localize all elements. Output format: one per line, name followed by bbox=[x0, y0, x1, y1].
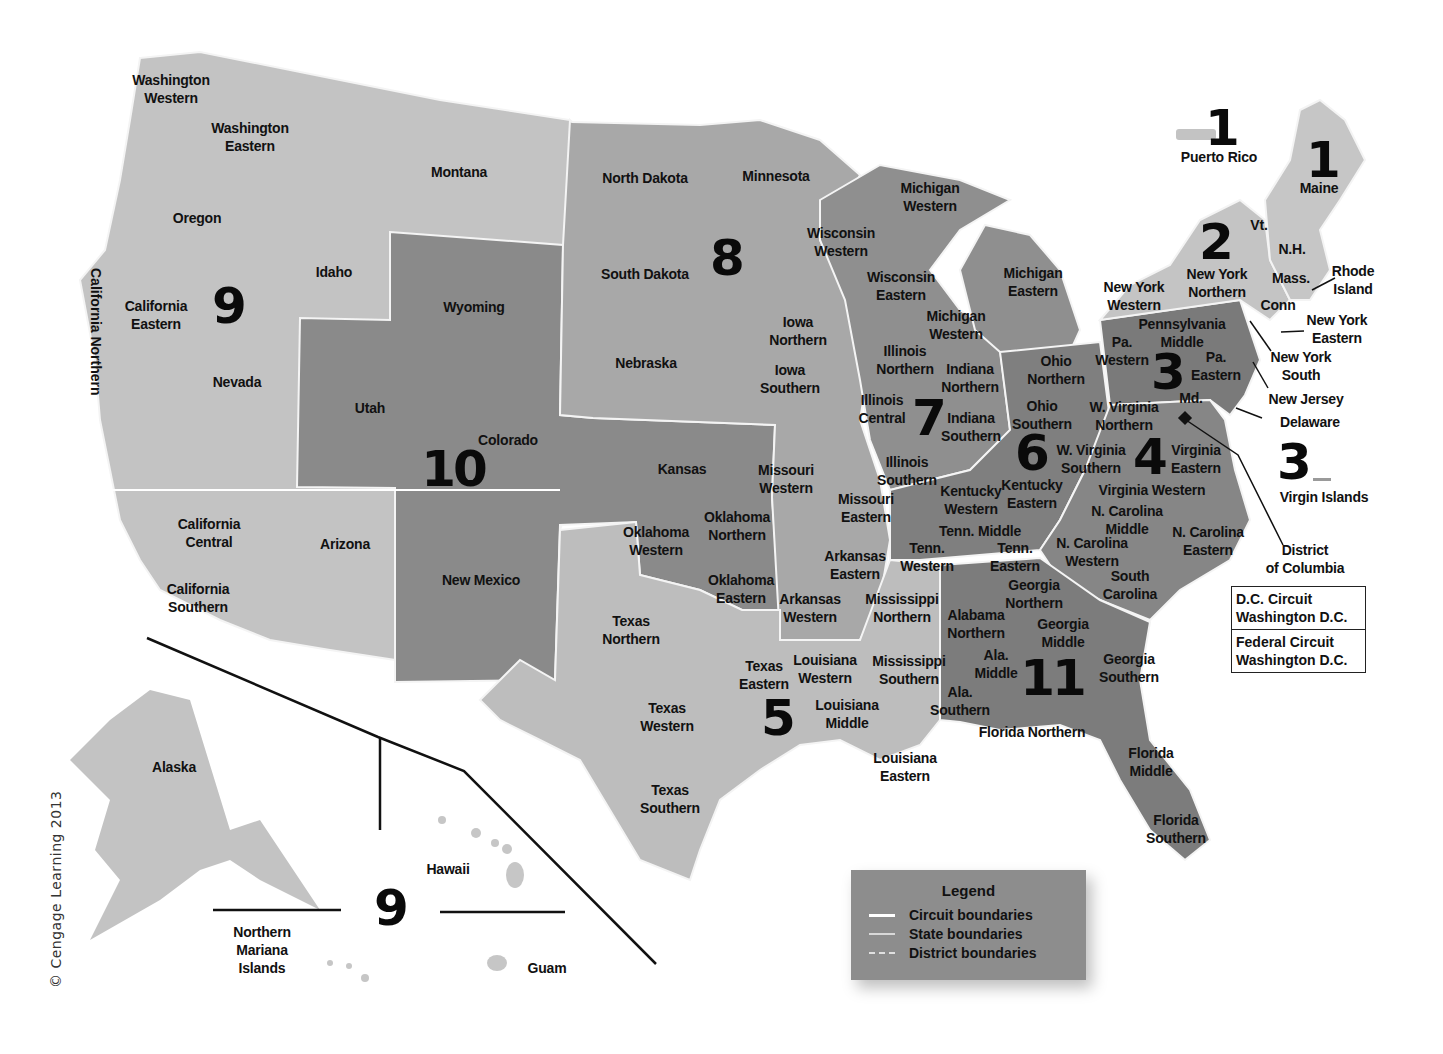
circuit-number: 11 bbox=[1020, 653, 1084, 703]
circuit-boundary-swatch bbox=[869, 914, 895, 917]
circuit-number: 8 bbox=[710, 233, 742, 283]
district-label: Nevada bbox=[213, 373, 262, 391]
district-label: Texas Northern bbox=[602, 612, 660, 648]
district-label: Delaware bbox=[1280, 413, 1340, 431]
district-label: Utah bbox=[355, 399, 385, 417]
district-label: Texas Eastern bbox=[739, 657, 789, 693]
district-label: Georgia Northern bbox=[1005, 576, 1063, 612]
district-label: Tenn. Eastern bbox=[990, 539, 1040, 575]
district-label: Texas Western bbox=[640, 699, 694, 735]
district-label: South Carolina bbox=[1103, 567, 1157, 603]
district-label: Oregon bbox=[173, 209, 222, 227]
district-label: Mass. bbox=[1272, 269, 1310, 287]
district-boundary-swatch bbox=[869, 952, 895, 954]
district-label: Wisconsin Eastern bbox=[867, 268, 935, 304]
district-label: Guam bbox=[528, 959, 567, 977]
district-label: Missouri Western bbox=[758, 461, 814, 497]
pacific-islands bbox=[327, 955, 507, 982]
district-label: Washington Eastern bbox=[211, 119, 289, 155]
district-label: Michigan Western bbox=[926, 307, 985, 343]
district-label: Indiana Northern bbox=[941, 360, 999, 396]
district-label: Illinois Northern bbox=[876, 342, 934, 378]
district-label: Colorado bbox=[478, 431, 538, 449]
district-label: Minnesota bbox=[742, 167, 809, 185]
legend-item-circuit: Circuit boundaries bbox=[869, 906, 1033, 924]
california-northern-label: California Northern bbox=[88, 268, 104, 396]
district-label: California Central bbox=[178, 515, 241, 551]
district-label: Puerto Rico bbox=[1181, 148, 1257, 166]
district-label: Indiana Southern bbox=[941, 409, 1001, 445]
circuit-number: 3 bbox=[1151, 347, 1183, 397]
district-label: Iowa Northern bbox=[769, 313, 827, 349]
district-label: New Jersey bbox=[1268, 390, 1343, 408]
district-label: Ala. Middle bbox=[974, 646, 1017, 682]
district-label: N. Carolina Middle bbox=[1091, 502, 1163, 538]
district-label: Ala. Southern bbox=[930, 683, 990, 719]
district-label: N. Carolina Eastern bbox=[1172, 523, 1244, 559]
district-label: California Southern bbox=[167, 580, 230, 616]
dc-circuit-cell: D.C. Circuit Washington D.C. bbox=[1232, 587, 1365, 629]
district-label: Rhode Island bbox=[1332, 262, 1375, 298]
legend-title: Legend bbox=[851, 882, 1086, 899]
district-label: Vt. bbox=[1250, 216, 1267, 234]
district-label: Virginia Eastern bbox=[1171, 441, 1221, 477]
district-label: New York Eastern bbox=[1307, 311, 1368, 347]
district-label: Maine bbox=[1300, 179, 1339, 197]
district-label: N. Carolina Western bbox=[1056, 534, 1128, 570]
district-label: Louisiana Eastern bbox=[873, 749, 937, 785]
district-label: South Dakota bbox=[601, 265, 689, 283]
district-label: Florida Middle bbox=[1128, 744, 1173, 780]
district-label: Iowa Southern bbox=[760, 361, 820, 397]
legend-item-district: District boundaries bbox=[869, 944, 1037, 962]
district-label: North Dakota bbox=[602, 169, 688, 187]
district-label: Kansas bbox=[658, 460, 707, 478]
circuit-number: 9 bbox=[374, 883, 406, 933]
district-label: Texas Southern bbox=[640, 781, 700, 817]
district-label: Kentucky Eastern bbox=[1001, 476, 1062, 512]
district-label: Virgin Islands bbox=[1280, 488, 1369, 506]
district-label: Conn bbox=[1261, 296, 1296, 314]
district-label: Mississippi Northern bbox=[865, 590, 938, 626]
circuit-number: 7 bbox=[912, 393, 944, 443]
district-label: Georgia Southern bbox=[1099, 650, 1159, 686]
circuit-number: 4 bbox=[1133, 432, 1165, 482]
district-label: Idaho bbox=[316, 263, 352, 281]
district-label: Illinois Southern bbox=[877, 453, 937, 489]
alaska-shape bbox=[70, 690, 320, 940]
district-label: California Eastern bbox=[125, 297, 188, 333]
legend-item-state: State boundaries bbox=[869, 925, 1023, 943]
circuit-number: 2 bbox=[1199, 217, 1231, 267]
district-label: Wyoming bbox=[443, 298, 504, 316]
district-label: Alabama Northern bbox=[947, 606, 1005, 642]
district-label: Arkansas Eastern bbox=[824, 547, 885, 583]
district-label: Washington Western bbox=[132, 71, 210, 107]
district-label: Oklahoma Northern bbox=[704, 508, 770, 544]
circuit-number: 1 bbox=[1205, 103, 1237, 153]
district-label: Nebraska bbox=[615, 354, 676, 372]
district-label: Montana bbox=[431, 163, 487, 181]
legend-label: State boundaries bbox=[909, 926, 1023, 942]
district-label: Kentucky Western bbox=[940, 482, 1001, 518]
district-label: Pennsylvania Middle bbox=[1138, 315, 1225, 351]
circuit-number: 5 bbox=[761, 693, 793, 743]
district-label: Wisconsin Western bbox=[807, 224, 875, 260]
district-label: Arizona bbox=[320, 535, 370, 553]
district-label: Michigan Western bbox=[900, 179, 959, 215]
legend: Legend Circuit boundaries State boundari… bbox=[851, 870, 1086, 980]
circuit-number: 9 bbox=[212, 281, 244, 331]
district-label: Michigan Eastern bbox=[1003, 264, 1062, 300]
district-label: Oklahoma Western bbox=[623, 523, 689, 559]
district-label: Louisiana Western bbox=[793, 651, 857, 687]
district-label: Pa. Eastern bbox=[1191, 348, 1241, 384]
district-label: Virginia Western bbox=[1099, 481, 1206, 499]
district-label: Illinois Central bbox=[859, 391, 906, 427]
legend-label: Circuit boundaries bbox=[909, 907, 1033, 923]
district-label: Florida Southern bbox=[1146, 811, 1206, 847]
district-label: Louisiana Middle bbox=[815, 696, 879, 732]
district-label: New Mexico bbox=[442, 571, 520, 589]
copyright-notice: © Cengage Learning 2013 bbox=[48, 791, 64, 989]
circuit-number: 1 bbox=[1306, 135, 1338, 185]
district-label: Md. bbox=[1179, 389, 1203, 407]
federal-circuit-cell: Federal Circuit Washington D.C. bbox=[1232, 629, 1365, 672]
district-label: New York South bbox=[1271, 348, 1332, 384]
